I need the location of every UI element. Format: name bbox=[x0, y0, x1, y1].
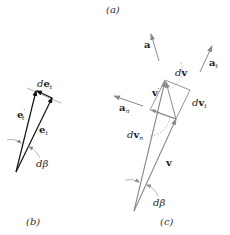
v-label: v bbox=[165, 157, 173, 168]
panel-c: a at an dv v′ dvt dvn v dβ (c) bbox=[114, 34, 218, 227]
d-beta-label-b: dβ bbox=[36, 158, 48, 169]
a-label: a bbox=[144, 39, 151, 50]
e-t-prime-vector bbox=[16, 91, 36, 172]
decomposition-rectangle bbox=[150, 80, 190, 119]
dv-t-label: dvt bbox=[192, 97, 207, 109]
dv-n-vector bbox=[152, 110, 176, 119]
e-t-label: et bbox=[39, 124, 48, 136]
e-t-prime-label: e′t bbox=[17, 108, 25, 121]
a-t-label: at bbox=[209, 57, 218, 69]
dv-n-label: dvn bbox=[127, 129, 143, 141]
panel-b: det e′t et dβ (b) bbox=[7, 78, 61, 227]
angle-arc-left-c bbox=[125, 179, 139, 182]
caption-c: (c) bbox=[160, 216, 174, 227]
v-prime-label: v′ bbox=[151, 87, 160, 98]
angle-arc-left bbox=[7, 139, 21, 143]
caption-a: (a) bbox=[106, 4, 120, 15]
angle-arc-right bbox=[29, 147, 40, 158]
kinematics-diagram: (a) det e′t et dβ (b) bbox=[0, 0, 230, 235]
d-beta-label-c: dβ bbox=[153, 197, 165, 208]
a-vector bbox=[151, 34, 159, 61]
tangent-guide-line bbox=[27, 88, 61, 103]
angle-arc-right-c bbox=[147, 185, 158, 196]
a-n-label: an bbox=[119, 102, 129, 114]
v-prime-vector bbox=[134, 81, 165, 211]
caption-b: (b) bbox=[26, 216, 40, 227]
de-t-vector bbox=[37, 91, 52, 98]
dv-vector bbox=[166, 82, 176, 119]
dv-label: dv bbox=[175, 67, 188, 78]
de-t-label: det bbox=[37, 78, 53, 90]
